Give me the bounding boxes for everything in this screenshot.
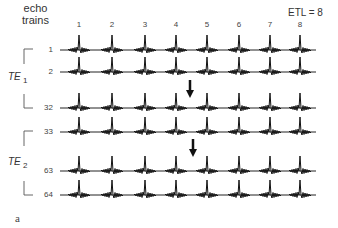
group-bracket bbox=[24, 49, 33, 108]
arrow-head-icon bbox=[189, 149, 197, 157]
arrow-head-icon bbox=[186, 90, 194, 98]
echo-train-diagram bbox=[0, 0, 338, 228]
panel-label: a bbox=[15, 212, 20, 224]
group-bracket bbox=[24, 131, 33, 195]
